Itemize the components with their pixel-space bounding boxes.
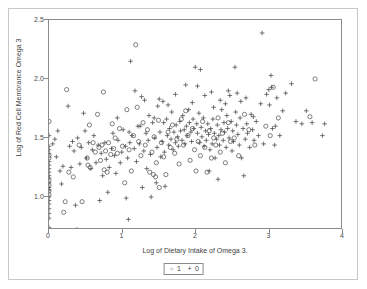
marker-plus	[247, 145, 252, 150]
marker-plus	[264, 92, 269, 97]
marker-circle	[188, 158, 192, 162]
marker-plus	[49, 216, 51, 221]
marker-plus	[322, 122, 327, 127]
marker-plus	[256, 133, 261, 138]
legend: ○1+0	[163, 263, 204, 275]
marker-plus	[78, 162, 83, 167]
marker-circle	[103, 149, 107, 153]
marker-plus	[197, 111, 202, 116]
marker-plus	[103, 140, 108, 145]
marker-plus	[267, 103, 272, 108]
marker-circle	[137, 139, 141, 143]
marker-plus	[94, 160, 99, 165]
marker-plus	[252, 138, 257, 143]
marker-plus	[197, 140, 202, 145]
legend-label: 0	[195, 265, 199, 272]
marker-plus	[133, 88, 138, 93]
marker-plus	[149, 195, 154, 200]
marker-plus	[234, 123, 239, 128]
marker-plus	[142, 98, 147, 103]
legend-entry: +0	[186, 265, 199, 272]
marker-plus	[106, 190, 111, 195]
marker-circle	[313, 77, 317, 81]
marker-plus	[186, 107, 191, 112]
y-tick-label: 2.0	[34, 74, 44, 81]
marker-plus	[289, 81, 294, 86]
marker-circle	[97, 145, 101, 149]
marker-plus	[189, 139, 194, 144]
marker-plus	[270, 126, 275, 131]
marker-plus	[191, 117, 196, 122]
marker-plus	[222, 130, 227, 135]
marker-plus	[241, 126, 246, 131]
marker-plus	[191, 126, 196, 131]
marker-plus	[83, 129, 88, 134]
marker-circle	[157, 185, 161, 189]
marker-circle	[143, 143, 147, 147]
marker-plus	[219, 107, 224, 112]
marker-plus	[208, 147, 213, 152]
marker-plus	[99, 151, 104, 156]
x-axis-title: Log of Dietary Intake of Omega 3.	[48, 247, 342, 254]
marker-plus	[54, 155, 59, 160]
x-tick-label: 0	[46, 232, 50, 239]
marker-plus	[146, 138, 151, 143]
legend-label: 1	[177, 265, 181, 272]
marker-plus	[127, 130, 132, 135]
marker-plus	[233, 65, 238, 70]
marker-plus	[182, 127, 187, 132]
marker-plus	[128, 140, 133, 145]
y-tick-label: 2.5	[34, 16, 44, 23]
marker-plus	[49, 211, 51, 216]
marker-circle	[115, 151, 119, 155]
marker-plus	[70, 139, 75, 144]
marker-plus	[225, 126, 230, 131]
marker-plus	[154, 181, 159, 186]
marker-plus	[310, 120, 315, 125]
marker-plus	[223, 101, 228, 106]
marker-circle	[125, 108, 129, 112]
marker-circle	[242, 112, 246, 116]
y-tick-mark	[44, 78, 48, 79]
marker-plus	[269, 85, 274, 90]
marker-plus	[109, 146, 114, 151]
y-tick-mark	[44, 19, 48, 20]
marker-plus	[67, 144, 72, 149]
marker-plus	[115, 116, 120, 121]
legend-entry: ○1	[168, 265, 181, 272]
marker-circle	[127, 148, 131, 152]
marker-circle	[164, 172, 168, 176]
marker-plus	[250, 127, 255, 132]
marker-plus	[178, 119, 183, 124]
marker-plus	[229, 119, 234, 124]
marker-circle	[156, 118, 160, 122]
marker-plus	[233, 110, 238, 115]
marker-plus	[187, 120, 192, 125]
marker-plus	[244, 122, 249, 127]
marker-plus	[280, 109, 285, 114]
marker-plus	[226, 88, 231, 93]
marker-circle	[264, 124, 268, 128]
marker-circle	[308, 115, 312, 119]
marker-plus	[175, 135, 180, 140]
marker-plus	[235, 91, 240, 96]
marker-plus	[237, 143, 242, 148]
marker-plus	[211, 105, 216, 110]
marker-plus	[147, 113, 152, 118]
marker-plus	[239, 99, 244, 104]
marker-circle	[192, 148, 196, 152]
marker-circle	[154, 161, 158, 165]
marker-plus	[272, 143, 277, 148]
marker-plus	[104, 157, 109, 162]
marker-plus	[183, 142, 188, 147]
marker-plus	[49, 202, 51, 207]
marker-plus	[269, 73, 274, 78]
marker-plus	[212, 131, 217, 136]
marker-circle	[194, 169, 198, 173]
marker-plus	[69, 165, 74, 170]
marker-plus	[134, 159, 139, 164]
marker-plus	[66, 104, 71, 109]
marker-circle	[253, 143, 257, 147]
marker-plus	[73, 203, 78, 208]
y-axis-title: Log of Red Cell Membrance Omega 3	[15, 18, 22, 178]
